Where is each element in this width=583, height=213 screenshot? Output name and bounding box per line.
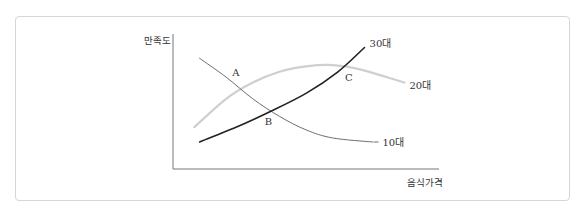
series-label-30대: 30대 (370, 38, 392, 49)
series-line-20대 (194, 65, 404, 127)
annotation-B: B (265, 116, 272, 127)
annotation-C: C (345, 72, 353, 83)
chart: 만족도 음식가격 20대10대30대 ABC (0, 0, 583, 213)
y-axis-label: 만족도 (144, 35, 171, 46)
series-line-30대 (200, 48, 365, 143)
annotation-A: A (231, 67, 240, 78)
series-layer: 20대10대30대 (194, 38, 431, 149)
axes: 만족도 음식가격 (144, 34, 443, 188)
series-label-10대: 10대 (383, 137, 405, 148)
x-axis-label: 음식가격 (407, 177, 443, 188)
series-label-20대: 20대 (409, 80, 431, 91)
